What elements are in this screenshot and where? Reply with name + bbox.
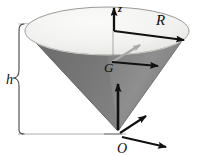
height-brace — [13, 24, 24, 134]
figure-canvas: z R h G O — [0, 0, 206, 157]
label-origin: O — [117, 141, 127, 156]
label-height: h — [6, 72, 13, 87]
label-z-axis: z — [117, 3, 122, 14]
label-radius: R — [155, 12, 165, 28]
cone-geometry-figure: z R h G O — [0, 0, 206, 157]
label-centroid: G — [104, 60, 114, 75]
